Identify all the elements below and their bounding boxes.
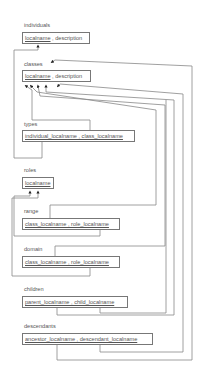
- table-name: types: [24, 121, 37, 127]
- table-columns: class_localname , role_localname: [22, 218, 120, 230]
- table-columns: localname , description: [22, 70, 91, 82]
- table-name: individuals: [24, 22, 50, 28]
- pk-columns: parent_localname , child_localname: [25, 299, 114, 305]
- pk-columns: localname: [25, 180, 51, 186]
- pk-columns: class_localname , role_localname: [25, 259, 109, 265]
- column: description: [55, 73, 82, 79]
- table-name: descendants: [24, 323, 56, 329]
- table-name: children: [24, 286, 44, 292]
- table-name: roles: [24, 167, 36, 173]
- pk-column: localname: [25, 35, 51, 41]
- table-columns: ancestor_localname , descendant_localnam…: [22, 333, 153, 345]
- table-columns: class_localname , role_localname: [22, 256, 120, 268]
- pk-columns: class_localname , role_localname: [25, 221, 109, 227]
- table-name: classes: [24, 61, 43, 67]
- pk-columns: ancestor_localname , descendant_localnam…: [25, 336, 137, 342]
- table-columns: individual_localname , class_localname: [22, 130, 135, 142]
- table-columns: localname: [22, 177, 54, 189]
- column: description: [55, 35, 82, 41]
- pk-columns: individual_localname , class_localname: [25, 133, 123, 139]
- table-name: range: [24, 208, 38, 214]
- table-columns: localname , description: [22, 32, 90, 44]
- table-name: domain: [24, 246, 42, 252]
- table-columns: parent_localname , child_localname: [22, 296, 128, 308]
- pk-column: localname: [25, 73, 51, 79]
